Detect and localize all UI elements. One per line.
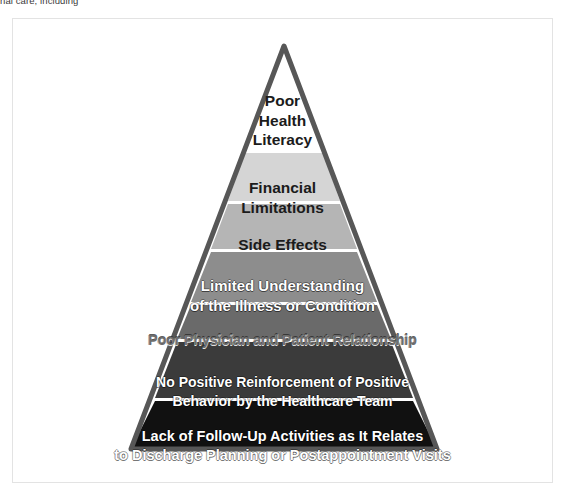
pyramid-tier-3-shape bbox=[211, 204, 357, 249]
clipped-caption-text: nal care, including bbox=[0, 0, 220, 8]
pyramid-tier-5-shape bbox=[177, 305, 391, 339]
pyramid-tier-6-shape bbox=[155, 342, 413, 398]
pyramid-diagram bbox=[13, 19, 554, 484]
pyramid-tier-1-shape bbox=[245, 46, 323, 153]
pyramid-tier-7-shape bbox=[131, 401, 437, 449]
figure-frame: Poor Health Literacy Financial Limitatio… bbox=[12, 18, 553, 483]
pyramid-tier-4-shape bbox=[191, 252, 377, 302]
pyramid-tier-2-shape bbox=[228, 153, 340, 201]
